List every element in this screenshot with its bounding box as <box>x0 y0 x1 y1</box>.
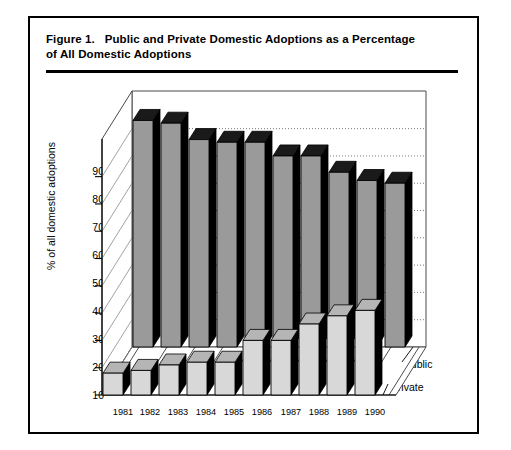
bar-public-1990-side <box>405 172 412 347</box>
bar-private-1982-face <box>131 370 151 395</box>
bar-public-1982-side <box>181 112 188 347</box>
bar-private-1989-side <box>347 305 354 395</box>
bar-private-1981-face <box>103 373 123 395</box>
figure-frame: Figure 1. Public and Private Domestic Ad… <box>28 16 479 434</box>
bar-private-1988-side <box>319 313 326 395</box>
bar-public-1990-face <box>385 183 405 347</box>
bar-private-1989-face <box>327 316 347 395</box>
bar-public-1985-side <box>265 131 272 347</box>
bar-private-1988-face <box>299 324 319 395</box>
chart-plot-area: % of all domestic adoptions 90 80 70 60 … <box>30 18 481 436</box>
bar-private-1983-face <box>159 365 179 395</box>
bar-public-1985-face <box>245 142 265 347</box>
bar-public-1983-side <box>209 129 216 347</box>
bar-public-1983-face <box>189 140 209 347</box>
bar-public-1984-face <box>217 142 237 347</box>
bar-private-1990-side <box>375 299 382 395</box>
bar-private-1990-face <box>355 310 375 395</box>
bar-private-1986-face <box>243 340 263 395</box>
bar-public-1982-face <box>161 123 181 347</box>
bar-public-1986-side <box>293 145 300 347</box>
bar-public-1986-face <box>273 156 293 347</box>
chart-3d-canvas <box>30 18 481 436</box>
bar-public-1984-side <box>237 131 244 347</box>
bar-public-1981-face <box>133 120 153 347</box>
bar-private-1985-face <box>215 362 235 395</box>
bar-public-1981-side <box>153 109 160 347</box>
bar-private-1987-face <box>271 340 291 395</box>
bar-private-1984-face <box>187 362 207 395</box>
